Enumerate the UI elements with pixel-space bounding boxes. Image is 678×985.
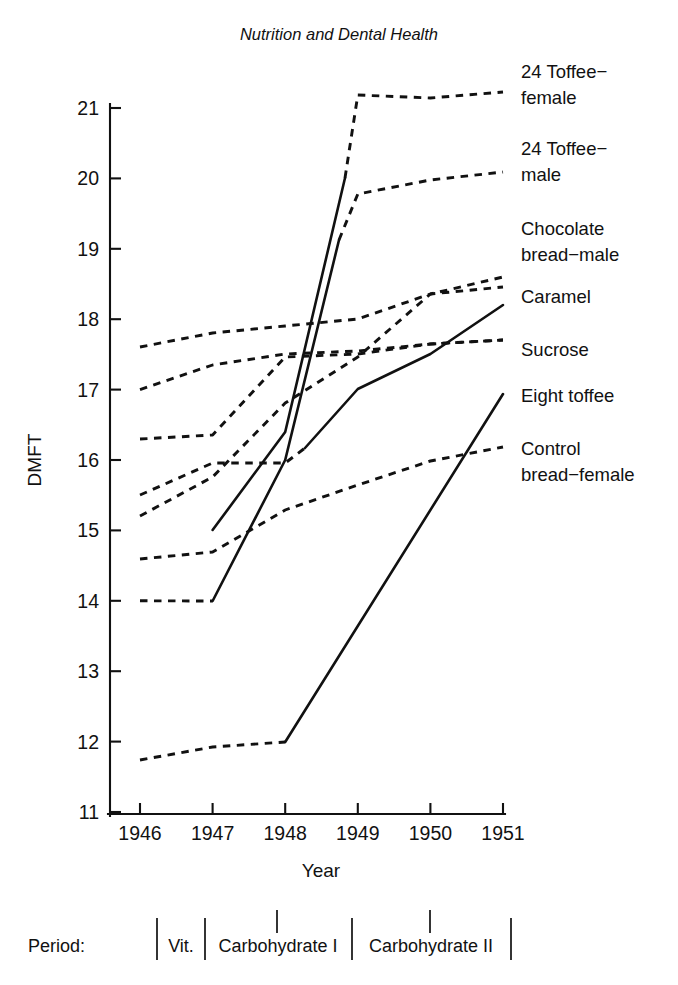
series-line-upper-band [140,340,503,439]
legend-label-line1: Eight toffee [521,385,614,406]
y-tick-label: 16 [77,449,99,471]
period-segment-vit: Vit. [168,936,194,956]
series-line-control-bread-female [140,447,503,559]
legend-label-line1: 24 Toffee− [521,138,607,159]
period-segment-carbohydrate-2: Carbohydrate II [369,936,493,956]
legend-label-line1: Sucrose [521,339,589,360]
y-tick-label: 17 [77,379,99,401]
legend-sucrose[interactable]: Sucrose [521,339,589,360]
x-tick-label: 1950 [409,822,453,844]
legend-chocolate-bread-male[interactable]: Chocolate bread−male [521,218,619,265]
legend-label-line1: Control [521,438,581,459]
legend-caramel[interactable]: Caramel [521,286,591,307]
x-axis-ticks [140,803,503,814]
y-tick-label: 18 [77,308,99,330]
legend-label-line2: bread−male [521,244,619,265]
x-axis-label: Year [302,860,341,881]
series-line-24-toffee-female-dashed-right [345,92,503,178]
period-axis-label: Period: [28,936,85,956]
series-line-chocolate-bread-male-solid [305,305,503,448]
series-line-24-toffee-male-solid [213,240,339,601]
x-tick-label: 1948 [264,822,307,844]
x-axis-tick-labels: 1946 1947 1948 1949 1950 1951 [118,822,524,844]
legend-eight-toffee[interactable]: Eight toffee [521,385,614,406]
legend-control-bread-female[interactable]: Control bread−female [521,438,635,485]
x-tick-label: 1951 [481,822,524,844]
y-tick-label: 20 [77,167,99,189]
legend-label-line2: female [521,87,577,108]
period-segment-carbohydrate-1: Carbohydrate I [218,936,337,956]
legend-label-line1: 24 Toffee− [521,61,607,82]
y-axis-label: DMFT [24,433,45,486]
legend-label-line1: Chocolate [521,218,604,239]
chart-figure: Nutrition and Dental Health 21 20 19 18 … [0,0,678,985]
y-axis-ticks [110,108,121,812]
x-tick-label: 1946 [118,822,161,844]
series-line-eight-toffee-solid [285,394,503,742]
legend-label-line2: male [521,164,561,185]
y-axis-tick-labels: 21 20 19 18 17 16 15 14 13 12 11 [77,97,99,823]
chart-title: Nutrition and Dental Health [240,25,438,43]
legend-label-line1: Caramel [521,286,591,307]
y-tick-label: 19 [77,238,99,260]
x-tick-label: 1947 [191,822,234,844]
y-tick-label: 12 [77,731,99,753]
dmft-line-chart: Nutrition and Dental Health 21 20 19 18 … [0,0,678,985]
legend-24-toffee-female[interactable]: 24 Toffee− female [521,61,607,108]
legend-24-toffee-male[interactable]: 24 Toffee− male [521,138,607,185]
legend-label-line2: bread−female [521,464,635,485]
y-tick-label: 13 [77,660,99,682]
series-line-eight-toffee-dashed [140,742,285,760]
y-tick-label: 14 [77,590,99,612]
y-tick-label: 15 [77,519,99,541]
y-tick-label: 21 [77,97,99,119]
series-line-sucrose [140,340,503,390]
series-line-24-toffee-male-dashed-right [339,172,503,240]
x-tick-label: 1949 [336,822,379,844]
y-tick-label: 11 [79,801,99,823]
